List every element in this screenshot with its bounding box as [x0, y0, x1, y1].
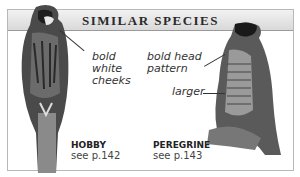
hobby-illustration [14, 3, 76, 175]
peregrine-page-ref[interactable]: see p.143 [153, 150, 202, 161]
peregrine-label-3: larger [172, 86, 205, 98]
hobby-label-3: cheeks [92, 75, 131, 87]
hobby-name: HOBBY [71, 140, 106, 150]
peregrine-name: PEREGRINE [153, 140, 210, 150]
peregrine-label-2: pattern [147, 63, 188, 75]
peregrine-size-pointer-line [203, 93, 225, 94]
hobby-page-ref[interactable]: see p.142 [71, 150, 120, 161]
peregrine-illustration [205, 20, 285, 160]
